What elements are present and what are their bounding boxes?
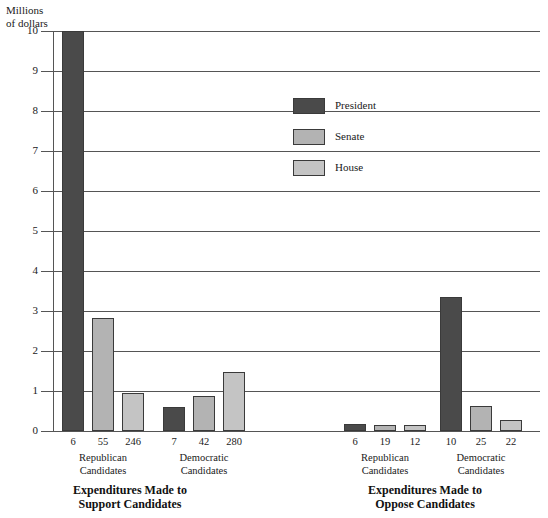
y-tick-label: 0 <box>16 424 38 436</box>
x-axis-line <box>53 431 540 432</box>
group-label: Democratic Candidates <box>141 452 267 477</box>
bar <box>404 425 426 431</box>
y-tick-label: 5 <box>16 224 38 236</box>
y-tick-label: 6 <box>16 184 38 196</box>
legend-item: President <box>293 98 413 116</box>
legend-item: House <box>293 160 413 178</box>
gridline <box>41 391 540 392</box>
bar <box>344 424 366 431</box>
y-tick-label: 8 <box>16 104 38 116</box>
bar-count-label: 12 <box>397 436 433 447</box>
bar-count-label: 246 <box>115 436 151 447</box>
bar <box>62 31 84 431</box>
gridline <box>41 351 540 352</box>
gridline <box>41 311 540 312</box>
section-title: Expenditures Made to Support Candidates <box>50 483 210 511</box>
legend-label: President <box>335 99 376 111</box>
bar <box>122 393 144 431</box>
gridline <box>41 111 540 112</box>
gridline <box>41 431 53 432</box>
y-axis-line <box>53 31 54 432</box>
legend-swatch <box>293 129 325 145</box>
gridline <box>41 271 540 272</box>
y-tick-label: 1 <box>16 384 38 396</box>
legend-label: House <box>335 161 363 173</box>
bar-count-label: 22 <box>493 436 529 447</box>
y-tick-label: 4 <box>16 264 38 276</box>
bar <box>470 406 492 431</box>
bar <box>92 318 114 431</box>
section-title: Expenditures Made to Oppose Candidates <box>345 483 505 511</box>
bar <box>223 372 245 431</box>
y-tick-label: 7 <box>16 144 38 156</box>
y-tick-label: 3 <box>16 304 38 316</box>
y-tick-label: 10 <box>16 24 38 36</box>
y-tick-label: 2 <box>16 344 38 356</box>
legend-swatch <box>293 160 325 176</box>
gridline <box>41 191 540 192</box>
bar <box>193 396 215 431</box>
bar <box>163 407 185 431</box>
gridline <box>41 151 540 152</box>
legend-item: Senate <box>293 129 413 147</box>
legend-swatch <box>293 98 325 114</box>
gridline <box>41 71 540 72</box>
gridline <box>41 231 540 232</box>
legend-label: Senate <box>335 130 364 142</box>
group-label: Democratic Candidates <box>418 452 544 477</box>
y-tick-label: 9 <box>16 64 38 76</box>
bar-count-label: 280 <box>216 436 252 447</box>
bar <box>440 297 462 431</box>
gridline <box>41 31 540 32</box>
bar <box>500 420 522 431</box>
bar <box>374 425 396 431</box>
chart-canvas: Millions of dollars 012345678910 6552467… <box>0 0 548 518</box>
